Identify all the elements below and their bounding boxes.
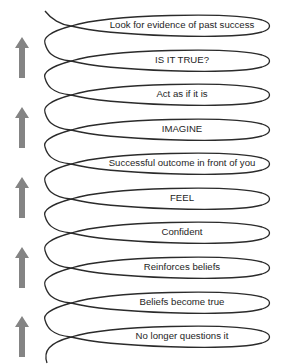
step-label: Beliefs become true xyxy=(96,296,268,308)
step-label: Look for evidence of past success xyxy=(96,19,268,31)
up-arrow-icon xyxy=(15,37,29,78)
step-label: Confident xyxy=(96,226,268,238)
up-arrow-icon xyxy=(15,177,29,218)
up-arrow-icon xyxy=(15,316,29,357)
step-label: IMAGINE xyxy=(96,123,268,135)
arrow-column xyxy=(15,37,29,357)
up-arrow-icon xyxy=(15,107,29,148)
up-arrow-icon xyxy=(15,247,29,288)
step-label: Reinforces beliefs xyxy=(96,261,268,273)
step-label: FEEL xyxy=(96,192,268,204)
step-label: IS IT TRUE? xyxy=(96,54,268,66)
step-label: Act as if it is xyxy=(96,88,268,100)
step-label: No longer questions it xyxy=(96,330,268,342)
step-label: Successful outcome in front of you xyxy=(96,157,268,169)
